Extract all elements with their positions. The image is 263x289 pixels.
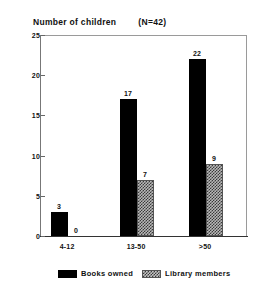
- y-axis-ticks: 0510152025: [0, 0, 40, 289]
- bar-books-owned: [120, 99, 137, 236]
- bar-chart-figure: Number of children(N=42) 0510152025 3017…: [0, 0, 263, 289]
- bar-library-members: [137, 180, 154, 236]
- x-axis-line: [40, 236, 248, 237]
- y-tick-mark: [41, 236, 45, 237]
- bar-books-owned: [189, 59, 206, 236]
- x-tick-label: >50: [199, 243, 211, 250]
- legend-label: Books owned: [81, 269, 133, 278]
- bar-value-label: 7: [133, 171, 158, 178]
- y-tick-label: 20: [22, 72, 40, 79]
- bars-layer: 30177229: [40, 35, 247, 236]
- y-tick-label: 10: [22, 152, 40, 159]
- chart-title-text: Number of children: [33, 17, 116, 27]
- y-tick-label: 5: [22, 192, 40, 199]
- legend-item: Library members: [142, 269, 230, 278]
- chart-legend: Books ownedLibrary members: [58, 269, 230, 278]
- legend-item: Books owned: [58, 269, 133, 278]
- chart-title: Number of children(N=42): [33, 17, 166, 27]
- chart-sample-size: (N=42): [138, 17, 166, 27]
- x-tick-label: 4-12: [60, 243, 75, 250]
- y-tick-label: 15: [22, 112, 40, 119]
- y-tick-label: 25: [22, 32, 40, 39]
- legend-label: Library members: [165, 269, 230, 278]
- x-tick-label: 13-50: [127, 243, 146, 250]
- bar-value-label: 17: [116, 90, 141, 97]
- bar-value-label: 9: [202, 155, 227, 162]
- bar-library-members: [206, 164, 223, 236]
- bar-value-label: 0: [64, 227, 89, 234]
- legend-swatch-books-owned: [58, 270, 77, 278]
- bar-value-label: 3: [47, 203, 72, 210]
- y-tick-label: 0: [22, 233, 40, 240]
- legend-swatch-library-members: [142, 270, 161, 278]
- bar-value-label: 22: [185, 50, 210, 57]
